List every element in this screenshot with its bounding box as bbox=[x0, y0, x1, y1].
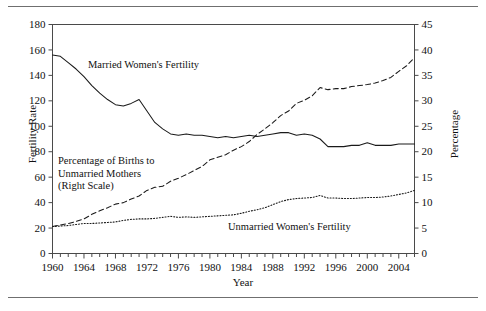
annot-pct-line-1: Percentage of Births to bbox=[58, 155, 155, 166]
x-tick-label: 1960 bbox=[42, 261, 65, 273]
y-tick-label-right: 45 bbox=[422, 18, 434, 30]
series-line-1 bbox=[53, 58, 415, 227]
y-axis-label-left: Fertility Rate bbox=[26, 84, 38, 184]
y-axis-label-right: Percentage bbox=[448, 84, 460, 184]
y-tick-label-left: 140 bbox=[29, 69, 46, 81]
y-tick-label-left: 180 bbox=[29, 18, 46, 30]
data-series-group bbox=[53, 55, 415, 227]
y-tick-label-right: 25 bbox=[422, 120, 434, 132]
x-tick-label: 1976 bbox=[167, 261, 190, 273]
y-tick-label-right: 20 bbox=[422, 145, 434, 157]
x-tick-label: 1996 bbox=[325, 261, 348, 273]
x-tick-label: 2004 bbox=[388, 261, 411, 273]
y-tick-label-right: 40 bbox=[422, 44, 434, 56]
annotation-percentage-births-unmarried: Percentage of Births to Unmarried Mother… bbox=[58, 155, 155, 193]
y-tick-label-right: 5 bbox=[422, 222, 428, 234]
annotation-unmarried-womens-fertility: Unmarried Women's Fertility bbox=[228, 221, 351, 234]
y-tick-label-right: 30 bbox=[422, 94, 434, 106]
figure-container: 0204060801001201401601800510152025303540… bbox=[0, 0, 486, 311]
y-tick-label-left: 0 bbox=[40, 247, 46, 259]
x-axis-label: Year bbox=[0, 276, 486, 288]
y-tick-label-left: 40 bbox=[35, 196, 47, 208]
y-tick-label-right: 10 bbox=[422, 196, 434, 208]
y-tick-label-left: 20 bbox=[35, 222, 47, 234]
y-tick-label-left: 160 bbox=[29, 44, 46, 56]
tick-labels-group: 0204060801001201401601800510152025303540… bbox=[29, 18, 433, 272]
x-tick-label: 1968 bbox=[104, 261, 127, 273]
x-tick-label: 1980 bbox=[199, 261, 222, 273]
x-tick-label: 1964 bbox=[73, 261, 96, 273]
x-tick-label: 1972 bbox=[136, 261, 158, 273]
y-tick-label-right: 0 bbox=[422, 247, 428, 259]
y-tick-label-right: 35 bbox=[422, 69, 434, 81]
x-tick-label: 1988 bbox=[262, 261, 285, 273]
x-tick-label: 1984 bbox=[230, 261, 253, 273]
y-tick-label-right: 15 bbox=[422, 171, 434, 183]
x-tick-label: 2000 bbox=[356, 261, 379, 273]
x-tick-label: 1992 bbox=[293, 261, 315, 273]
annot-pct-line-3: (Right Scale) bbox=[58, 180, 114, 191]
annot-pct-line-2: Unmarried Mothers bbox=[58, 168, 141, 179]
annotation-married-womens-fertility: Married Women's Fertility bbox=[88, 59, 199, 72]
